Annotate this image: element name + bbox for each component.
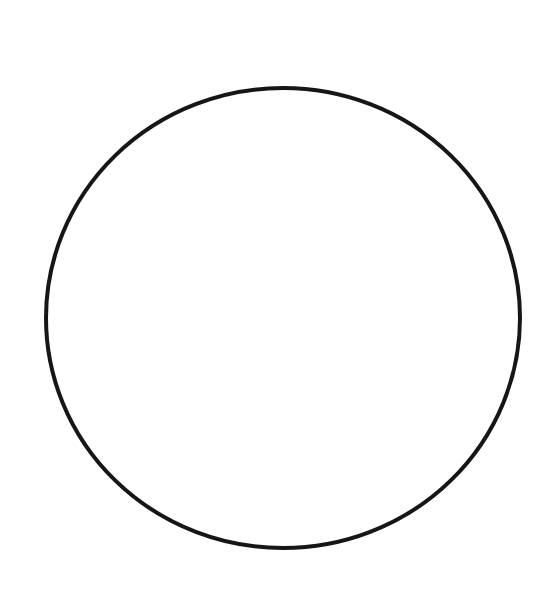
circle-outline [46,88,520,548]
diagram-svg [0,0,558,615]
drawing-canvas [0,0,558,615]
